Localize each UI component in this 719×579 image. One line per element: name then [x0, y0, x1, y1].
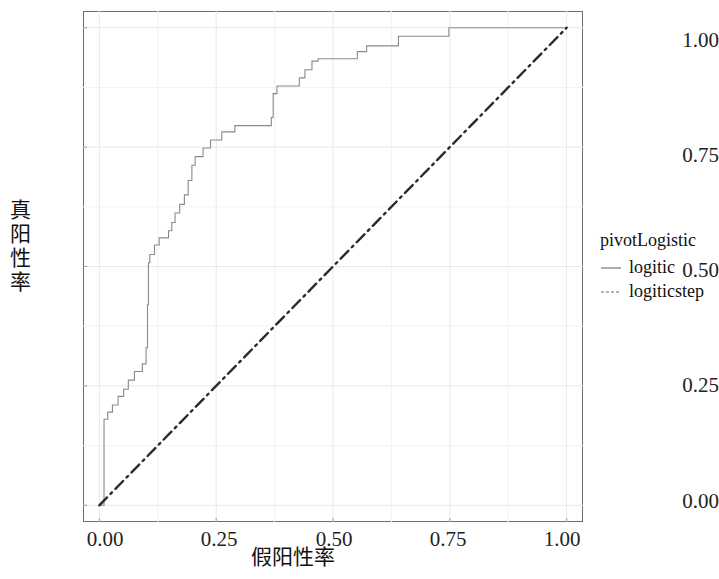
legend-item-logitic[interactable]: logitic — [600, 257, 719, 278]
legend-item-logiticstep[interactable]: logiticstep — [600, 281, 719, 302]
y-tick-label-5: 0.00 — [657, 489, 719, 514]
y-tick-label-1: 1.00 — [657, 28, 719, 53]
x-axis-title: 假阳性率 — [0, 540, 586, 570]
legend-title: pivotLogistic — [600, 230, 719, 251]
roc-chart-figure: 真阳性率 1.00 0.75 0.50 0.25 0.00 0.00 0.25 … — [0, 0, 719, 579]
plot-canvas — [83, 11, 583, 522]
legend-solid-line-icon — [600, 261, 622, 275]
y-tick-label-4: 0.25 — [657, 373, 719, 398]
y-tick-label-2: 0.75 — [657, 143, 719, 168]
legend-label-logitic: logitic — [629, 257, 675, 278]
legend-label-logiticstep: logiticstep — [629, 281, 704, 302]
legend: pivotLogistic logitic logiticstep — [600, 230, 719, 305]
legend-dashed-line-icon — [600, 285, 622, 299]
y-axis-title: 真阳性率 — [6, 198, 34, 294]
